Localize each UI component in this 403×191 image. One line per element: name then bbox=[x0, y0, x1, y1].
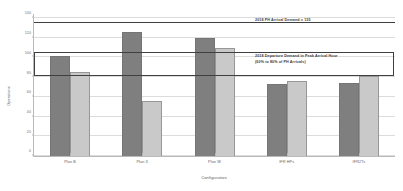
bar-departures bbox=[70, 72, 90, 156]
bar-chart: Operations 020406080100120140 Plan BPlan… bbox=[0, 0, 403, 191]
x-tick-label: IFR2Ts bbox=[353, 160, 366, 164]
departure-demand-band bbox=[34, 52, 394, 76]
y-tick-label: 0 bbox=[29, 151, 31, 155]
x-tick-label: Plan X bbox=[136, 160, 148, 164]
x-tick-label: Plan W bbox=[208, 160, 221, 164]
bar-group: Plan W bbox=[178, 14, 250, 156]
bar-group: IFR2Ts bbox=[323, 14, 395, 156]
bar-departures bbox=[359, 76, 379, 156]
plot-area: 020406080100120140 Plan BPlan XPlan WIFR… bbox=[33, 14, 395, 157]
y-tick-label: 40 bbox=[27, 111, 31, 115]
y-tick-label: 20 bbox=[27, 131, 31, 135]
y-tick-label: 120 bbox=[25, 32, 31, 36]
x-tick-mark bbox=[142, 153, 143, 156]
x-axis-title: Configuration bbox=[33, 175, 395, 180]
bar-group: IFR HPs bbox=[251, 14, 323, 156]
bar-departures bbox=[142, 101, 162, 156]
x-tick-mark bbox=[287, 153, 288, 156]
x-tick-mark bbox=[70, 153, 71, 156]
y-tick-label: 100 bbox=[25, 52, 31, 56]
bar-departures bbox=[287, 81, 307, 156]
x-tick-mark bbox=[215, 153, 216, 156]
departure-demand-band-label-line1: 2018 Departure Demand in Peak Arrival Ho… bbox=[255, 54, 338, 60]
bar-group: Plan X bbox=[106, 14, 178, 156]
bar-arrivals bbox=[339, 83, 359, 156]
x-tick-mark bbox=[359, 153, 360, 156]
bar-groups: Plan BPlan XPlan WIFR HPsIFR2Ts bbox=[34, 14, 395, 156]
y-tick-label: 80 bbox=[27, 72, 31, 76]
bar-arrivals bbox=[122, 32, 142, 156]
bar-arrivals bbox=[267, 84, 287, 156]
x-tick-label: Plan B bbox=[64, 160, 76, 164]
y-axis-title: Operations bbox=[7, 86, 11, 106]
bar-group: Plan B bbox=[34, 14, 106, 156]
y-tick-label: 140 bbox=[25, 13, 31, 17]
y-tick-label: 60 bbox=[27, 91, 31, 95]
arrival-demand-reference-line bbox=[34, 22, 395, 23]
departure-demand-band-label-line2: (60% to 80% of PH Arrivals) bbox=[255, 60, 306, 66]
arrival-demand-reference-label: 2018 PH Arrival Demand = 135 bbox=[255, 18, 311, 22]
x-tick-label: IFR HPs bbox=[279, 160, 294, 164]
